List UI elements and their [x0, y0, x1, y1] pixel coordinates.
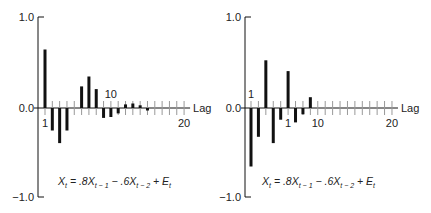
x-tick-label: 1: [248, 88, 254, 100]
x-tick-label: 10: [312, 117, 324, 129]
x-axis-label: Lag: [193, 102, 211, 114]
y-tick-label: 1.0: [19, 11, 34, 23]
acf-bar-lag-4: [272, 108, 275, 143]
acf-bar-lag-15: [146, 108, 149, 111]
y-tick-label: −1.0: [219, 191, 241, 203]
x-tick-label: 20: [386, 117, 398, 129]
x-tick-label: 20: [178, 117, 190, 129]
acf-bar-lag-2: [257, 108, 260, 137]
x-axis-label: Lag: [401, 102, 419, 114]
acf-bar-lag-11: [117, 108, 120, 113]
formula-right: Xt = .8Xt − 1 − .6Xt − 2 + Et: [262, 175, 375, 189]
acf-bar-lag-12: [124, 104, 127, 108]
y-tick-label: 1.0: [226, 11, 241, 23]
x-tick-label: 1: [42, 117, 48, 129]
acf-bar-lag-4: [65, 108, 68, 131]
acf-bar-lag-8: [301, 108, 304, 114]
acf-bar-lag-10: [109, 108, 112, 117]
acf-bar-lag-8: [95, 89, 98, 108]
x-tick-label: 1: [285, 117, 291, 129]
acf-bar-lag-3: [58, 108, 61, 143]
acf-bar-lag-1: [250, 108, 253, 167]
acf-bar-lag-9: [102, 108, 105, 118]
acf-bar-lag-3: [264, 60, 267, 108]
acf-bar-lag-1: [44, 50, 47, 109]
acf-bar-lag-7: [87, 77, 90, 109]
acf-bar-lag-6: [287, 71, 290, 108]
acf-bar-lag-14: [139, 105, 142, 108]
acf-bar-lag-2: [51, 108, 54, 131]
acf-bar-lag-5: [279, 108, 282, 120]
acf-bar-lag-6: [80, 86, 83, 108]
y-tick-label: 0.0: [19, 102, 34, 114]
y-tick-label: −1.0: [12, 191, 34, 203]
acf-bar-lag-13: [131, 104, 134, 109]
formula-left: Xt = .8Xt − 1 − .6Xt − 2 + Et: [58, 175, 171, 189]
x-tick-label: 10: [105, 88, 117, 100]
acf-figure: 1.00.0−1.011020Lag1.00.0−1.0111020Lag Xt…: [0, 0, 431, 213]
acf-bar-lag-7: [294, 108, 297, 122]
acf-bar-lag-9: [309, 97, 312, 108]
y-tick-label: 0.0: [226, 102, 241, 114]
